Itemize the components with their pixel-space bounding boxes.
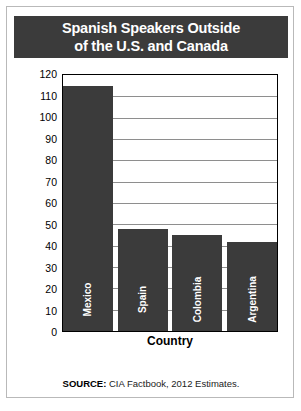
source-note: SOURCE: CIA Factbook, 2012 Estimates. bbox=[14, 378, 288, 389]
y-tick-label: 20 bbox=[45, 283, 57, 295]
x-axis-title: Country bbox=[62, 334, 278, 348]
y-axis-ticks: 0102030405060708090100110120 bbox=[62, 74, 278, 332]
chart-title-line-2: of the U.S. and Canada bbox=[74, 37, 228, 55]
y-tick-label: 40 bbox=[45, 240, 57, 252]
y-tick-label: 10 bbox=[45, 305, 57, 317]
y-tick-label: 30 bbox=[45, 262, 57, 274]
y-tick-label: 60 bbox=[45, 197, 57, 209]
y-tick-label: 50 bbox=[45, 219, 57, 231]
y-tick-label: 70 bbox=[45, 176, 57, 188]
y-tick-label: 90 bbox=[45, 133, 57, 145]
y-tick-label: 100 bbox=[39, 111, 57, 123]
y-tick-label: 0 bbox=[51, 326, 57, 338]
y-tick-label: 110 bbox=[40, 90, 57, 102]
chart-card: Spanish Speakers Outside of the U.S. and… bbox=[6, 6, 294, 398]
y-tick-label: 120 bbox=[39, 68, 57, 80]
y-tick-label: 80 bbox=[45, 154, 57, 166]
chart-title-banner: Spanish Speakers Outside of the U.S. and… bbox=[14, 16, 288, 58]
chart-title-line-1: Spanish Speakers Outside bbox=[62, 19, 240, 37]
chart-area: Speakers of Spanish (millions) MexicoSpa… bbox=[14, 60, 288, 372]
source-label: SOURCE: bbox=[63, 378, 107, 389]
source-value: CIA Factbook, 2012 Estimates. bbox=[106, 378, 239, 389]
